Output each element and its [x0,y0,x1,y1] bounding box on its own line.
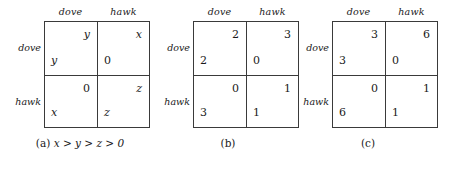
cell-dove-hawk: x 0 [97,22,149,75]
row-payoff: x [51,107,57,118]
row-payoff: 0 [392,55,399,66]
row-label-hawk: hawk [303,75,329,129]
cell-hawk-hawk: 1 1 [385,75,437,128]
payoff-matrix-figure: dove hawk dove hawk y y x 0 0 x [0,0,456,169]
row-payoff: z [104,107,110,118]
cell-dove-dove: y y [45,22,97,75]
caption-label: (a) [36,137,50,149]
col-payoff: 0 [83,83,90,94]
col-payoff: 1 [423,83,430,94]
column-header-hawk: hawk [246,3,299,20]
row-payoff: 0 [104,55,111,66]
column-header-row-c: dove hawk [332,3,438,20]
col-payoff: z [136,83,142,94]
row-payoff: 3 [200,107,207,118]
row-payoff: 0 [253,55,260,66]
cell-dove-hawk: 6 0 [385,22,437,75]
matrix-grid-wrapper-a: y y x 0 0 x z z [44,21,150,128]
column-header-row-b: dove hawk [193,3,299,20]
cell-dove-hawk: 3 0 [246,22,298,75]
caption-label: (c) [361,137,375,149]
row-payoff: 1 [253,107,260,118]
row-payoff: y [51,55,57,66]
cell-hawk-hawk: 1 1 [246,75,298,128]
col-payoff: x [136,29,142,40]
caption-label: (b) [221,137,236,149]
row-label-column-c: dove hawk [296,21,331,128]
caption-expression: x > y > z > 0 [54,137,125,149]
row-label-dove: dove [306,21,329,75]
col-payoff: 0 [371,83,378,94]
column-header-dove: dove [193,3,246,20]
col-payoff: 6 [423,29,430,40]
cell-dove-dove: 2 2 [194,22,246,75]
col-payoff: 0 [232,83,239,94]
row-label-column-b: dove hawk [157,21,192,128]
column-header-row-a: dove hawk [44,3,150,20]
caption-a: (a) x > y > z > 0 [8,136,152,150]
cell-dove-dove: 3 3 [333,22,385,75]
col-payoff: 3 [371,29,378,40]
caption-b: (b) [157,136,299,150]
row-payoff: 2 [200,55,207,66]
col-payoff: 2 [232,29,239,40]
column-header-hawk: hawk [97,3,150,20]
row-payoff: 6 [339,107,346,118]
payoff-table-b: 2 2 3 0 0 3 1 1 [193,21,299,128]
cell-hawk-dove: 0 6 [333,75,385,128]
row-payoff: 1 [392,107,399,118]
cell-hawk-hawk: z z [97,75,149,128]
cell-hawk-dove: 0 x [45,75,97,128]
column-header-hawk: hawk [385,3,438,20]
row-label-dove: dove [18,21,41,75]
column-header-dove: dove [332,3,385,20]
row-label-column-a: dove hawk [8,21,43,128]
column-header-dove: dove [44,3,97,20]
caption-c: (c) [296,136,440,150]
col-payoff: 1 [284,83,291,94]
cell-hawk-dove: 0 3 [194,75,246,128]
row-label-hawk: hawk [15,75,41,129]
row-label-dove: dove [167,21,190,75]
matrix-grid-wrapper-c: 3 3 6 0 0 6 1 1 [332,21,438,128]
row-payoff: 3 [339,55,346,66]
matrix-grid-wrapper-b: 2 2 3 0 0 3 1 1 [193,21,299,128]
payoff-table-a: y y x 0 0 x z z [44,21,150,128]
col-payoff: 3 [284,29,291,40]
row-label-hawk: hawk [164,75,190,129]
col-payoff: y [84,29,90,40]
payoff-table-c: 3 3 6 0 0 6 1 1 [332,21,438,128]
